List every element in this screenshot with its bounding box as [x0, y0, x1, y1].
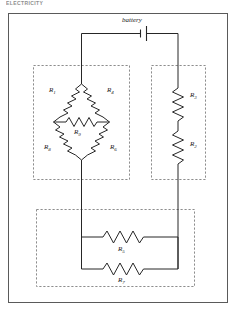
circuit-diagram	[0, 0, 237, 311]
r9-subscript: 9	[78, 132, 81, 137]
r5-resistor-symbol	[103, 231, 144, 243]
r6-resistor-symbol	[82, 122, 110, 160]
battery-label: battery	[122, 16, 142, 24]
r4-label: R4	[107, 87, 114, 94]
r7-label: R7	[118, 277, 125, 284]
r6-label: R6	[110, 144, 117, 151]
r2-subscript: 2	[194, 144, 197, 149]
r1-label: R1	[49, 87, 56, 94]
r5-label: R5	[118, 246, 125, 253]
r3-label: R3	[190, 92, 197, 99]
r9-resistor-symbol	[66, 118, 97, 127]
r2-label: R2	[190, 141, 197, 148]
r5-subscript: 5	[122, 249, 125, 254]
r3-resistor-symbol	[173, 88, 184, 121]
r4-resistor-symbol	[82, 84, 110, 122]
r7-resistor-symbol	[103, 263, 144, 275]
r9-label: R9	[74, 129, 81, 136]
r8-subscript: 8	[48, 147, 51, 152]
parallel-group-box	[37, 210, 195, 287]
r4-subscript: 4	[111, 90, 114, 95]
r1-subscript: 1	[53, 90, 56, 95]
r1-resistor-symbol	[54, 84, 82, 122]
r3-subscript: 3	[194, 95, 197, 100]
r8-label: R8	[44, 144, 51, 151]
r7-subscript: 7	[122, 280, 125, 285]
r6-subscript: 6	[114, 147, 117, 152]
figure-page: ELECTRICITY	[0, 0, 237, 311]
r2-resistor-symbol	[173, 131, 184, 164]
